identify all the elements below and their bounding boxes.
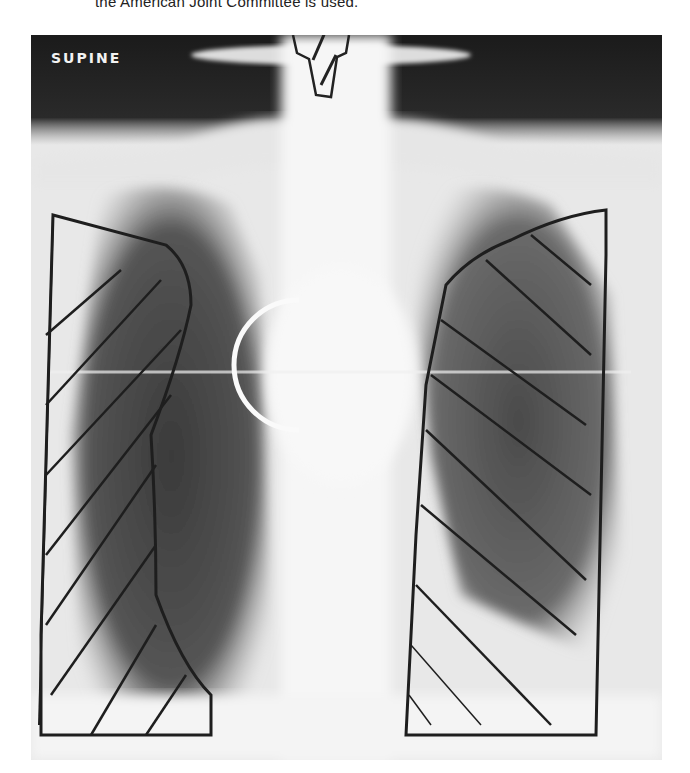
radiograph-graphic [31,35,662,760]
caption-text: the American Joint Committee is used. [95,0,615,10]
position-label: SUPINE [51,50,121,66]
chest-radiograph: SUPINE [31,35,662,760]
